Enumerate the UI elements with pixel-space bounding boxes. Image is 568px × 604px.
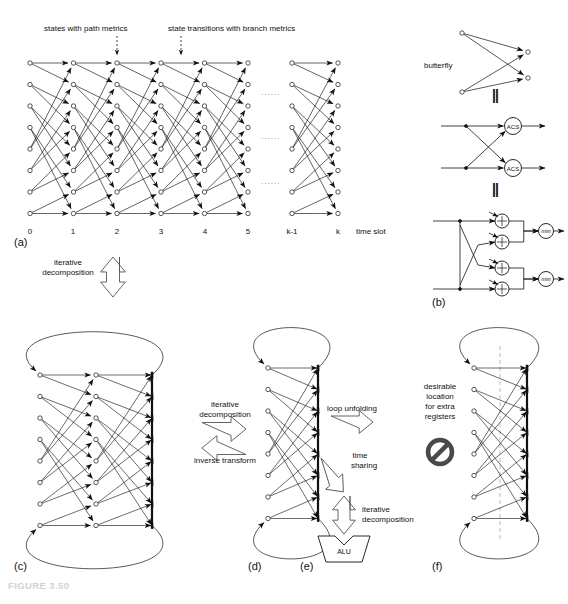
trellis-state-node-t2-s7 xyxy=(115,211,119,215)
trellis-transition xyxy=(75,89,114,147)
bus-cross-wire-b xyxy=(460,245,478,285)
time-slot-label-1: 1 xyxy=(65,227,81,237)
butterfly-output-node-0 xyxy=(526,50,530,54)
acs-block-label-1: ACS xyxy=(507,166,519,172)
trellis-transition xyxy=(31,89,70,147)
butterfly-input-node-1 xyxy=(460,90,464,94)
butterfly-input-node-0 xyxy=(460,31,464,35)
trellis-state-node-t0-s2 xyxy=(28,104,32,108)
trellis-state-node-t0-s6 xyxy=(28,190,32,194)
trellis-transition xyxy=(163,173,200,191)
panel-e-alu: ALU xyxy=(318,536,370,562)
trellis-state-node-tail1-s5 xyxy=(336,168,340,172)
folded-state-node-c0-s6 xyxy=(266,495,270,499)
trellis-state-node-tail0-s4 xyxy=(290,147,294,151)
trellis-state-node-t2-s0 xyxy=(115,61,119,65)
trellis-transition xyxy=(163,194,200,212)
trellis-transition xyxy=(162,89,201,147)
trellis-transition xyxy=(31,110,70,168)
branch-metric-input-0 xyxy=(489,212,498,216)
min-block-label-0: min xyxy=(541,228,551,234)
trellis-state-node-t0-s3 xyxy=(28,125,32,129)
trellis-transition xyxy=(206,85,243,103)
folded-state-node-c0-s7 xyxy=(38,523,42,527)
trellis-state-node-t2-s5 xyxy=(115,168,119,172)
arrow-iterative-decomposition-c-to-d xyxy=(202,417,246,442)
trellis-state-node-t2-s4 xyxy=(115,147,119,151)
folded-transition-0 xyxy=(270,369,317,389)
trellis-state-node-t0-s4 xyxy=(28,147,32,151)
trellis-state-node-tail0-s2 xyxy=(290,104,294,108)
folded-state-node-c0-s0 xyxy=(266,366,270,370)
folded-state-node-c0-s3 xyxy=(266,430,270,434)
trellis-transition xyxy=(205,68,245,147)
folded-state-node-c1-s3 xyxy=(94,437,98,441)
folded-transition-1 xyxy=(98,483,151,503)
panel-label-b: (b) xyxy=(432,296,445,308)
trellis-state-node-t3-s4 xyxy=(159,147,163,151)
time-slot-label-5: 5 xyxy=(240,227,256,237)
arrow-loop-unfolding-d-to-f xyxy=(331,411,373,434)
trellis-state-node-tail1-s1 xyxy=(336,82,340,86)
annotation-state-transitions-with-branch-metrics: state transitions with branch metrics xyxy=(168,24,295,34)
folded-state-node-c1-s1 xyxy=(94,394,98,398)
min-block-label-1: min xyxy=(541,276,551,282)
trellis-state-node-t3-s7 xyxy=(159,211,163,215)
trellis-transition xyxy=(119,194,156,212)
trellis-state-node-tail0-s3 xyxy=(290,125,294,129)
axis-label-time-slot: time slot xyxy=(356,227,386,237)
trellis-state-node-t4-s1 xyxy=(202,82,206,86)
trellis-state-node-t4-s2 xyxy=(202,104,206,108)
folded-state-node-c0-s1 xyxy=(266,387,270,391)
trellis-state-node-t4-s7 xyxy=(202,211,206,215)
trellis-transition-tail xyxy=(294,85,333,103)
folded-state-node-c0-s0 xyxy=(38,373,42,377)
trellis-transition-tail xyxy=(294,173,333,191)
trellis-state-node-tail1-s6 xyxy=(336,190,340,194)
folded-state-node-c0-s1 xyxy=(38,394,42,398)
feedback-loop-bottom xyxy=(460,519,539,559)
feedback-loop-bottom xyxy=(26,526,163,569)
time-slot-label-3: 3 xyxy=(153,227,169,237)
trellis-transition xyxy=(119,64,156,82)
transform-label-iterative-decomposition-c-d-line2: decomposition xyxy=(183,410,267,420)
trellis-state-node-tail0-s1 xyxy=(290,82,294,86)
transform-label-iterative-decomposition-a-c-line2: decomposition xyxy=(26,268,110,278)
panel-label-f: (f) xyxy=(432,560,442,572)
folded-state-node-c0-s0 xyxy=(472,366,476,370)
trellis-state-node-t1-s0 xyxy=(71,61,75,65)
butterfly-label: butterfly xyxy=(424,61,452,71)
trellis-transition-tail xyxy=(293,68,335,147)
folded-transition-0 xyxy=(41,380,93,460)
trellis-transition xyxy=(75,85,112,103)
trellis-transition xyxy=(206,64,243,82)
folded-state-node-c0-s3 xyxy=(472,430,476,434)
trellis-state-node-t5-s0 xyxy=(246,61,250,65)
time-slot-label-4: 4 xyxy=(197,227,213,237)
trellis-state-node-tail0-s7 xyxy=(290,211,294,215)
folded-transition-0 xyxy=(41,441,93,521)
folded-transition-1 xyxy=(98,504,151,524)
panel-a-trellis xyxy=(28,36,340,216)
diagram-canvas: ACSACSminmin ALU xyxy=(0,0,568,604)
trellis-state-node-t1-s2 xyxy=(71,104,75,108)
acs-cross-wire-1 xyxy=(466,131,505,168)
trellis-state-node-t5-s5 xyxy=(246,168,250,172)
folded-transition-0 xyxy=(270,476,317,496)
folded-state-node-c0-s5 xyxy=(266,473,270,477)
trellis-transition xyxy=(162,68,202,147)
trellis-transition xyxy=(118,129,159,208)
branch-metric-input-3 xyxy=(489,280,498,284)
trellis-state-node-t5-s3 xyxy=(246,125,250,129)
trellis-transition xyxy=(74,68,114,147)
branch-metric-input-2 xyxy=(489,259,498,263)
alu-block-label: ALU xyxy=(337,548,351,555)
time-slot-label-k-minus-1: k-1 xyxy=(281,227,303,237)
trellis-state-node-t0-s7 xyxy=(28,211,32,215)
note-desirable-line-3: for extra xyxy=(409,402,471,412)
bus-elbow-wire-b xyxy=(478,242,495,245)
trellis-state-node-t4-s0 xyxy=(202,61,206,65)
folded-state-node-c1-s6 xyxy=(94,502,98,506)
trellis-transition xyxy=(118,89,158,147)
trellis-transition xyxy=(163,64,200,82)
